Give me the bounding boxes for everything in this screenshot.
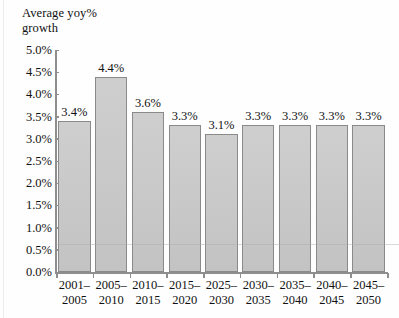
bar-value-label: 4.4% [91,62,131,75]
y-axis-tick-label: 3.5% [12,111,52,124]
bar [316,125,348,272]
x-axis-tick-label: 2045– 2050 [347,278,390,308]
x-axis-tick-mark [387,273,389,278]
y-axis-tick-label: 0.5% [12,244,52,257]
y-axis-tick-label: 1.5% [12,199,52,212]
bar-value-label: 3.3% [312,110,352,123]
bar-value-label: 3.1% [201,119,241,132]
bar [95,77,127,272]
bar [279,125,311,272]
bar-value-label: 3.3% [238,110,278,123]
y-axis-tick-label: 2.5% [12,155,52,168]
y-axis-tick-mark [55,116,59,118]
y-axis-tick-group: 5.0%4.5%4.0%3.5%3.0%2.5%2.0%1.5%1.0%0.5%… [0,0,52,318]
y-axis-tick-mark [55,205,59,207]
bar [169,125,201,272]
bar [242,125,274,272]
y-axis-tick-label: 4.0% [12,88,52,101]
bar [132,112,164,272]
bar [58,121,90,272]
bar-value-label: 3.4% [54,106,94,119]
y-axis-tick-mark [55,183,59,185]
bar-value-label: 3.6% [128,97,168,110]
x-axis-line [55,272,388,274]
bar-value-label: 3.3% [348,110,388,123]
bar-value-label: 3.3% [165,110,205,123]
y-axis-tick-mark [55,227,59,229]
y-axis-tick-label: 2.0% [12,177,52,190]
y-axis-tick-mark [55,249,59,251]
y-axis-tick-mark [55,272,59,274]
y-axis-tick-mark [55,161,59,163]
y-axis-tick-label: 3.0% [12,133,52,146]
y-axis-tick-label: 5.0% [12,44,52,57]
bar-value-label: 3.3% [275,110,315,123]
bar [205,134,237,272]
y-axis-tick-label: 4.5% [12,66,52,79]
y-axis-tick-label: 1.0% [12,222,52,235]
y-axis-tick-mark [55,138,59,140]
bar-chart: Average yoy% growth 5.0%4.5%4.0%3.5%3.0%… [0,0,399,318]
y-axis-tick-mark [55,94,59,96]
y-axis-tick-mark [55,50,59,52]
bar [352,125,384,272]
plot-area: 3.4%4.4%3.6%3.3%3.1%3.3%3.3%3.3%3.3% [56,50,387,272]
y-axis-tick-mark [55,72,59,74]
y-axis-tick-label: 0.0% [12,266,52,279]
